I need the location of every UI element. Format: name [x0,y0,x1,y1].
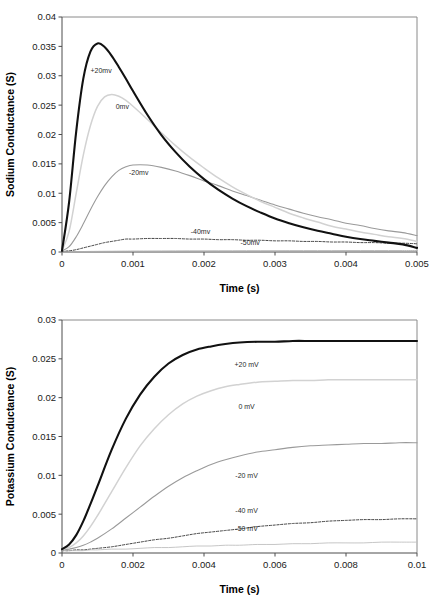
y-tick-label: 0.02 [38,129,57,140]
y-tick-label: 0 [51,547,56,558]
y-tick-label: 0.005 [32,217,56,228]
x-tick-label: 0.004 [192,559,216,570]
sodium-conductance-panel: 00.0050.010.0150.020.0250.030.0350.0400.… [0,0,448,300]
y-axis-title: Sodium Conductance (S) [4,72,16,197]
sodium-plot: 00.0050.010.0150.020.0250.030.0350.0400.… [0,0,448,300]
curve-label: -20mv [129,169,149,176]
y-tick-label: 0.04 [38,11,57,22]
curve-label: -40mv [191,228,211,235]
curve-20mv [62,165,417,251]
y-tick-label: 0.035 [32,41,56,52]
y-tick-label: 0.025 [32,100,56,111]
x-axis-title: Time (s) [219,583,259,595]
x-tick-label: 0.005 [405,258,429,269]
x-tick-label: 0.004 [334,258,358,269]
curve-label: -50mv [240,239,260,246]
curve-label: -50 mV [235,525,258,532]
y-tick-label: 0.015 [32,158,56,169]
x-tick-label: 0.001 [121,258,145,269]
y-tick-label: 0.03 [38,70,57,81]
y-axis-title: Potassium Conductance (S) [4,367,16,506]
x-tick-label: 0.006 [263,559,287,570]
plot-axes [62,17,417,252]
curve-label: +20mv [90,67,112,74]
x-tick-label: 0.002 [121,559,145,570]
curve-20mv [62,43,417,251]
x-tick-label: 0.008 [334,559,358,570]
y-tick-label: 0 [51,246,56,257]
y-tick-label: 0.01 [38,188,57,199]
curve-label: -20 mV [235,472,258,479]
curve-20mv [62,341,417,549]
curve-label: +20 mV [234,361,259,368]
x-tick-label: 0.003 [263,258,287,269]
y-tick-label: 0.015 [32,431,56,442]
plot-frame [62,17,417,252]
curve-label: -40 mV [235,507,258,514]
y-tick-label: 0.02 [38,392,57,403]
x-tick-label: 0.002 [192,258,216,269]
y-tick-label: 0.005 [32,509,56,520]
curve-label: 0 mV [238,403,255,410]
curve-20mv [62,443,417,550]
plot-axes [62,320,417,553]
x-axis-title: Time (s) [219,282,259,294]
curve-label: 0mv [116,103,130,110]
curve-40mv [62,519,417,551]
x-tick-label: 0.01 [408,559,427,570]
y-tick-label: 0.025 [32,353,56,364]
potassium-conductance-panel: 00.0050.010.0150.020.0250.0300.0020.0040… [0,300,448,607]
y-tick-label: 0.01 [38,470,57,481]
potassium-plot: 00.0050.010.0150.020.0250.0300.0020.0040… [0,300,448,607]
x-tick-label: 0 [59,258,64,269]
x-tick-label: 0 [59,559,64,570]
y-tick-label: 0.03 [38,314,57,325]
plot-frame [62,320,417,553]
conductance-figure: 00.0050.010.0150.020.0250.030.0350.0400.… [0,0,448,607]
